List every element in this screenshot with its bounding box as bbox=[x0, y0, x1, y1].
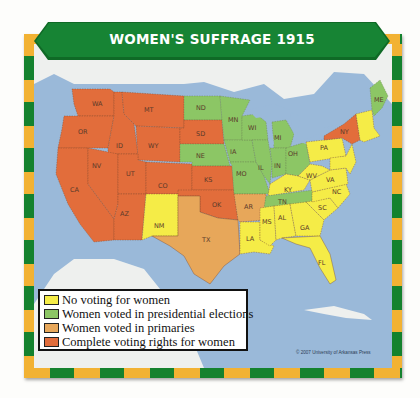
svg-text:ND: ND bbox=[196, 104, 206, 112]
svg-text:IN: IN bbox=[274, 162, 281, 170]
svg-text:IA: IA bbox=[230, 148, 237, 156]
legend-item-no-voting: No voting for women bbox=[44, 293, 242, 307]
svg-text:ID: ID bbox=[116, 142, 123, 150]
svg-text:MT: MT bbox=[144, 106, 154, 114]
svg-text:NM: NM bbox=[154, 222, 164, 230]
svg-text:MS: MS bbox=[262, 218, 272, 226]
svg-text:WV: WV bbox=[306, 172, 317, 180]
svg-text:SC: SC bbox=[318, 204, 327, 212]
svg-text:KS: KS bbox=[204, 176, 212, 184]
svg-text:LA: LA bbox=[246, 235, 255, 243]
title-banner: WOMEN'S SUFFRAGE 1915 bbox=[34, 22, 390, 60]
svg-text:GA: GA bbox=[300, 224, 310, 232]
copyright-notice: © 2007 University of Arkansas Press bbox=[296, 350, 371, 355]
svg-text:WY: WY bbox=[148, 142, 158, 150]
state-AZ bbox=[114, 194, 146, 240]
legend-item-presidential: Women voted in presidential elections bbox=[44, 307, 242, 321]
svg-text:FL: FL bbox=[318, 259, 326, 267]
legend-item-complete: Complete voting rights for women bbox=[44, 335, 242, 349]
state-VT-NH-MA-CT-RI bbox=[356, 110, 380, 142]
svg-text:OR: OR bbox=[78, 128, 88, 136]
state-CO bbox=[146, 162, 192, 194]
state-IA bbox=[224, 140, 256, 162]
legend-label: Women voted in primaries bbox=[62, 321, 195, 336]
swatch-no-voting bbox=[44, 295, 59, 305]
svg-text:MI: MI bbox=[274, 134, 282, 142]
state-FL bbox=[282, 236, 336, 284]
legend-label: No voting for women bbox=[62, 293, 170, 308]
svg-text:CO: CO bbox=[158, 182, 168, 190]
swatch-primaries bbox=[44, 323, 59, 333]
swatch-presidential bbox=[44, 309, 59, 319]
svg-text:OK: OK bbox=[212, 201, 222, 209]
svg-text:AL: AL bbox=[278, 214, 286, 222]
state-KS bbox=[192, 166, 234, 190]
svg-text:NC: NC bbox=[332, 188, 342, 196]
svg-text:TN: TN bbox=[277, 198, 287, 206]
legend-label: Complete voting rights for women bbox=[62, 335, 235, 350]
svg-text:MN: MN bbox=[228, 116, 239, 124]
svg-text:WA: WA bbox=[92, 100, 103, 108]
svg-text:NY: NY bbox=[340, 128, 349, 136]
state-MS bbox=[260, 206, 276, 246]
svg-text:NV: NV bbox=[92, 162, 102, 170]
state-NE bbox=[180, 144, 230, 166]
state-NM bbox=[142, 194, 178, 240]
svg-text:ME: ME bbox=[374, 96, 384, 104]
svg-text:AR: AR bbox=[244, 203, 253, 211]
svg-text:AZ: AZ bbox=[120, 210, 129, 218]
svg-text:PA: PA bbox=[320, 144, 329, 152]
legend-item-primaries: Women voted in primaries bbox=[44, 321, 242, 335]
svg-text:SD: SD bbox=[196, 130, 205, 138]
svg-text:UT: UT bbox=[126, 170, 135, 178]
svg-text:MO: MO bbox=[236, 170, 247, 178]
legend-label: Women voted in presidential elections bbox=[62, 307, 253, 322]
svg-text:WI: WI bbox=[248, 124, 256, 132]
legend: No voting for women Women voted in presi… bbox=[38, 289, 248, 351]
svg-text:CA: CA bbox=[70, 186, 80, 194]
svg-text:VA: VA bbox=[326, 176, 335, 184]
svg-text:NE: NE bbox=[196, 152, 205, 160]
svg-text:IL: IL bbox=[258, 164, 264, 172]
svg-text:TX: TX bbox=[201, 236, 211, 244]
swatch-complete bbox=[44, 337, 59, 347]
svg-text:KY: KY bbox=[284, 186, 292, 194]
map-title: WOMEN'S SUFFRAGE 1915 bbox=[34, 31, 390, 47]
svg-text:OH: OH bbox=[288, 150, 298, 158]
cuba-land bbox=[304, 306, 372, 320]
